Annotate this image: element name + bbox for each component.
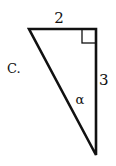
option-label: C.	[7, 61, 21, 76]
top-side-label: 2	[54, 9, 64, 27]
right-angle-marker	[82, 29, 96, 43]
triangle-diagram: 2 3 α C.	[0, 0, 116, 166]
right-triangle	[29, 29, 96, 155]
right-side-label: 3	[99, 71, 109, 89]
angle-label: α	[76, 92, 85, 107]
